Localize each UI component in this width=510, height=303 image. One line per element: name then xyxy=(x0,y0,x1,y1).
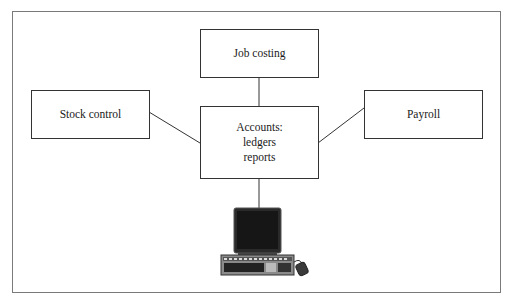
edge-stock-accounts xyxy=(149,112,200,143)
node-stock-control: Stock control xyxy=(31,90,150,139)
node-accounts: Accounts: ledgers reports xyxy=(200,106,319,179)
node-label: Accounts: ledgers reports xyxy=(236,120,283,165)
edge-payroll-accounts xyxy=(318,108,364,143)
node-payroll: Payroll xyxy=(364,90,483,139)
desktop-computer-icon xyxy=(221,208,309,277)
node-label: Payroll xyxy=(407,107,440,122)
node-label: Job costing xyxy=(233,46,285,61)
node-job-costing: Job costing xyxy=(200,29,319,78)
node-label: Stock control xyxy=(60,107,122,122)
